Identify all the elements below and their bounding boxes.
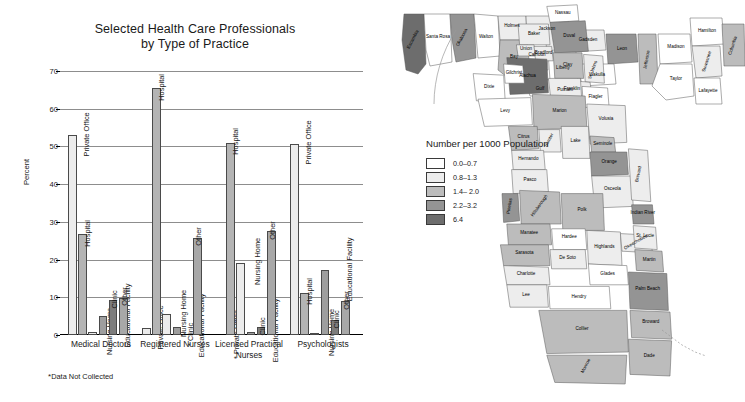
bar-label: Hospital: [233, 128, 240, 155]
county-label: Bradford: [535, 50, 553, 55]
county-label: Union: [520, 46, 532, 51]
bar[interactable]: Clinic: [109, 300, 118, 335]
county-label: Madison: [667, 44, 685, 49]
y-tick-mark: [56, 184, 60, 185]
legend-label: 6.4: [453, 215, 463, 224]
bar[interactable]: Educational Facility: [247, 332, 256, 335]
bar[interactable]: Other: [267, 231, 276, 335]
legend-rows: 0.0–0.70.8–1.31.4– 2.02.2–3.26.4: [426, 157, 626, 226]
bar[interactable]: Private Office: [68, 135, 77, 335]
county-label: Holmes: [504, 23, 520, 28]
bar-label: Other: [343, 291, 350, 309]
legend-row: 1.4– 2.0: [426, 185, 626, 198]
county-shape[interactable]: [424, 14, 452, 66]
county-label: Glades: [600, 271, 615, 276]
county-shape[interactable]: [658, 34, 692, 64]
bar[interactable]: Educational Facility: [321, 270, 330, 335]
legend-swatch: [426, 214, 445, 225]
legend-label: 1.4– 2.0: [453, 187, 479, 196]
bar-label: Other: [195, 227, 202, 245]
bar[interactable]: Private Office: [290, 144, 299, 335]
bar[interactable]: Hospital: [226, 143, 235, 335]
bar[interactable]: Hospital: [152, 88, 161, 335]
county-label: Dixie: [484, 84, 495, 89]
bar[interactable]: Nursing Home: [236, 263, 245, 335]
bar[interactable]: Nursing Home: [88, 332, 97, 335]
bar-label: Hospital: [159, 74, 166, 101]
legend-label: 0.8–1.3: [453, 173, 477, 182]
county-label: Collier: [575, 326, 588, 331]
legend-swatch: [426, 158, 445, 169]
bar[interactable]: Other: [193, 238, 202, 335]
legend-row: 2.2–3.2: [426, 199, 626, 212]
legend-swatch: [426, 172, 445, 183]
map-legend: Number per 1000 Population 0.0–0.70.8–1.…: [426, 138, 626, 227]
y-tick-mark: [56, 71, 60, 72]
county-label: Taylor: [670, 76, 683, 81]
bar-label: Private Office: [305, 121, 312, 165]
county-shape[interactable]: [652, 64, 694, 100]
county-shape[interactable]: [539, 310, 629, 353]
legend-row: 0.8–1.3: [426, 171, 626, 184]
bar[interactable]: Nursing Home: [310, 333, 319, 335]
legend-label: 0.0–0.7: [453, 159, 477, 168]
county-label: Duval: [563, 33, 575, 38]
bar-label: Nursing Home: [253, 238, 260, 285]
legend-label: 2.2–3.2: [453, 201, 477, 210]
bar-label: Other: [269, 221, 276, 239]
bar[interactable]: * Private Office: [216, 334, 225, 335]
category-label-line: Psychologists: [276, 339, 370, 350]
bar-chart-panel: Selected Health Care Professionals by Ty…: [0, 0, 390, 402]
county-label: Levy: [500, 108, 510, 113]
bar-label: Private Office: [83, 112, 90, 156]
bar-group: Private OfficeHospitalNursing HomeEducat…: [290, 71, 356, 335]
county-label: Walton: [479, 34, 494, 39]
county-label: Highlands: [594, 244, 615, 249]
county-shape[interactable]: [630, 310, 672, 339]
bar-label: Clinic: [111, 290, 118, 308]
plot-area: 010203040506070 Private OfficeHospitalNu…: [60, 71, 363, 335]
county-label: Clay: [563, 62, 573, 67]
y-tick-mark: [56, 109, 60, 110]
county-shape[interactable]: [402, 14, 426, 74]
chart-title-line1: Selected Health Care Professionals: [95, 22, 296, 36]
county-shape[interactable]: [628, 272, 668, 310]
bar[interactable]: Other: [119, 298, 128, 335]
y-tick-mark: [56, 260, 60, 261]
legend-swatch: [426, 186, 445, 197]
county-label: Broward: [642, 319, 660, 324]
bar[interactable]: Other: [341, 301, 350, 335]
bar[interactable]: Nursing Home: [162, 314, 171, 335]
county-label: Hardee: [562, 234, 578, 239]
county-label: Palm Beach: [635, 286, 660, 291]
county-label: Marion: [553, 108, 567, 113]
bar[interactable]: Hospital: [300, 293, 309, 335]
bar[interactable]: Clinic: [331, 320, 340, 335]
county-label: Manatee: [520, 230, 538, 235]
bar[interactable]: Private Office: [142, 328, 151, 335]
legend-title: Number per 1000 Population: [426, 138, 626, 149]
bar-group: Private OfficeHospitalNursing HomeEducat…: [142, 71, 208, 335]
county-label: Charlotte: [517, 271, 536, 276]
bar-label: Hospital: [85, 220, 92, 247]
county-label: Jackson: [539, 26, 556, 31]
county-label: Lee: [522, 292, 530, 297]
bar[interactable]: Clinic: [257, 327, 266, 335]
county-label: Flagler: [589, 94, 604, 99]
county-label: Volusia: [599, 116, 614, 121]
county-label: Indian River: [631, 210, 656, 215]
y-tick-mark: [56, 335, 60, 336]
y-tick-mark: [56, 297, 60, 298]
legend-swatch: [426, 200, 445, 211]
bar-label: Clinic: [259, 317, 266, 335]
bar[interactable]: * Clinic: [183, 334, 192, 335]
bar[interactable]: Educational Facility: [173, 327, 182, 335]
chart-footnote: *Data Not Collected: [48, 372, 113, 381]
bar[interactable]: Educational Facility: [99, 316, 108, 335]
county-label: Baker: [528, 31, 540, 36]
county-label: Dade: [644, 353, 655, 358]
county-label: St. Lucie: [636, 233, 654, 238]
bar[interactable]: Hospital: [78, 234, 87, 335]
y-axis-label: Percent: [22, 159, 31, 185]
county-label: Putnam: [557, 87, 573, 92]
